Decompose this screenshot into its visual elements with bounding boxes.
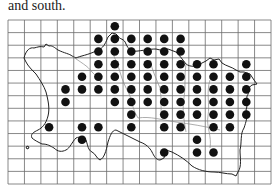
record-dot [193, 110, 202, 119]
record-dot [193, 98, 202, 107]
record-dot [61, 98, 70, 107]
record-dot [160, 60, 169, 69]
record-dot [143, 85, 152, 94]
record-dot [94, 85, 103, 94]
record-dot [127, 98, 136, 107]
record-dot [193, 73, 202, 82]
record-dot [209, 85, 218, 94]
record-dot [94, 47, 103, 56]
record-dot [242, 98, 251, 107]
record-dot [78, 73, 87, 82]
record-dot [242, 85, 251, 94]
record-dot [193, 136, 202, 145]
record-dot [209, 123, 218, 132]
record-dot [160, 98, 169, 107]
record-dot [127, 123, 136, 132]
record-dot [193, 85, 202, 94]
record-dot [226, 85, 235, 94]
record-dot [226, 110, 235, 119]
record-dot [127, 60, 136, 69]
record-dot [176, 123, 185, 132]
record-dot [193, 148, 202, 157]
record-dot [127, 73, 136, 82]
record-dot [45, 123, 54, 132]
record-dot [193, 60, 202, 69]
record-dot [226, 123, 235, 132]
record-dot [127, 47, 136, 56]
record-dot [111, 73, 120, 82]
record-dot [176, 35, 185, 44]
record-dot [143, 35, 152, 44]
record-dot [143, 47, 152, 56]
record-dot [143, 98, 152, 107]
record-dot [160, 85, 169, 94]
record-dot [209, 148, 218, 157]
record-dot [78, 136, 87, 145]
record-dot [176, 73, 185, 82]
record-dot [226, 98, 235, 107]
record-dot [160, 35, 169, 44]
record-dot [160, 148, 169, 157]
record-dot [111, 22, 120, 31]
record-dot [111, 98, 120, 107]
record-dot [242, 110, 251, 119]
record-dot [127, 85, 136, 94]
record-dot [242, 60, 251, 69]
record-dot [78, 85, 87, 94]
record-dot [143, 73, 152, 82]
record-dot [160, 73, 169, 82]
record-dot [176, 85, 185, 94]
record-dot [94, 123, 103, 132]
record-dot [111, 35, 120, 44]
record-dot [160, 123, 169, 132]
record-dot [209, 60, 218, 69]
record-dot [94, 35, 103, 44]
record-dot [78, 123, 87, 132]
distribution-map [0, 0, 276, 194]
record-dots [45, 22, 251, 157]
record-dot [160, 110, 169, 119]
record-dot [226, 73, 235, 82]
record-dot [94, 73, 103, 82]
record-dot [94, 60, 103, 69]
record-dot [242, 73, 251, 82]
record-dot [176, 60, 185, 69]
record-dot [209, 73, 218, 82]
record-dot [176, 110, 185, 119]
record-dot [111, 60, 120, 69]
record-dot [176, 47, 185, 56]
record-dot [143, 60, 152, 69]
record-dot [209, 110, 218, 119]
record-dot [160, 47, 169, 56]
record-dot [176, 98, 185, 107]
record-dot [61, 85, 70, 94]
record-dot [111, 85, 120, 94]
record-dot [127, 35, 136, 44]
record-dot [111, 47, 120, 56]
record-dot [127, 110, 136, 119]
record-dot [209, 98, 218, 107]
